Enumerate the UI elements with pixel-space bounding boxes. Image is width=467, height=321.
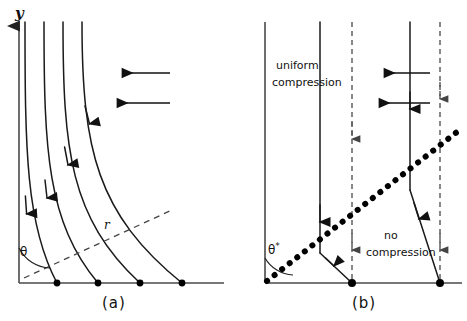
panel-b-characteristic-1-lower	[320, 253, 352, 283]
panel-a-caption: (a)	[102, 294, 126, 312]
panel-b-no-compression-label-line1: no	[384, 228, 398, 243]
panel-b-no-compression-label-line2: compression	[366, 245, 436, 260]
panel-a-foot-dot	[54, 280, 61, 287]
panel-b-caption: (b)	[352, 294, 376, 312]
panel-b-theta-star-label: θ*	[268, 241, 280, 257]
panel-b-flow-marker-4	[414, 203, 419, 219]
panel-a-foot-dot	[137, 280, 144, 287]
figure-container: y θ r (a) uniform compression no compres…	[0, 0, 467, 321]
panel-a-radius-label: r	[104, 218, 110, 232]
panel-a-group	[19, 22, 224, 286]
figure-canvas	[0, 0, 467, 321]
panel-a-streamline-1	[25, 22, 57, 283]
panel-a-theta-label: θ	[20, 245, 27, 259]
panel-b-theta-star-glyph: *	[275, 241, 280, 251]
panel-a-streamline-3	[63, 22, 140, 283]
panel-b-foot-dot	[348, 279, 356, 287]
panel-a-flow-marker-2	[45, 180, 47, 198]
panel-a-flow-marker-3	[65, 147, 68, 165]
panel-a-foot-dot	[95, 280, 102, 287]
panel-a-foot-dot	[179, 280, 186, 287]
panel-b-foot-dot	[436, 279, 444, 287]
panel-b-uniform-compression-label-line2: compression	[272, 75, 342, 90]
panel-b-flow-marker-3	[326, 258, 335, 266]
panel-a-flow-marker-1	[25, 196, 26, 214]
panel-b-uniform-compression-label-line1: uniform	[276, 58, 319, 73]
panel-a-y-axis-label: y	[15, 4, 24, 22]
